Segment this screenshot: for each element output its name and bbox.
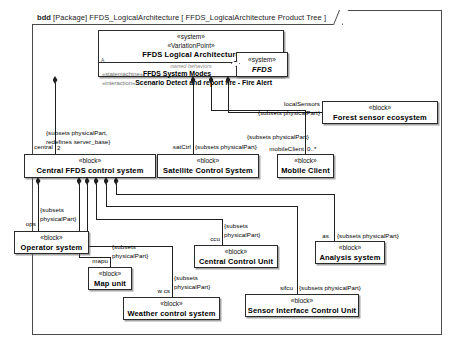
block-operator-system[interactable]: «block» Operator system (14, 231, 89, 254)
edge-label-localsensors-constraint: {subsets physicalPart} (222, 109, 320, 117)
edge-label-central-constraint-2: redefines server_base} (46, 138, 110, 146)
block-ffds-stereotype: «system» (237, 56, 287, 65)
edge-wcs-v2 (172, 246, 173, 297)
edge-ccu-v2 (222, 219, 223, 245)
block-ccu-stereotype: «block» (195, 248, 277, 257)
edge-label-ops-constraint-1: {subsets (40, 206, 64, 214)
diagram-title: [ FFDS_LogicalArchitecture Product Tree … (181, 13, 326, 22)
edge-label-mobile-role: mobileClient (252, 145, 304, 153)
edge-label-mobile-constraint: {subsets physicalPart} (247, 133, 309, 141)
diagram-kind-label: bdd (37, 13, 51, 22)
diagram-package-keyword: [Package] (53, 13, 87, 22)
block-root-marker: A (101, 57, 104, 63)
block-sensor-name: Sensor Interface Control Unit (246, 306, 358, 316)
edge-sifcu-v1 (106, 184, 107, 207)
behavior-interaction-name: Scenario Detect and report fire - Fire A… (135, 79, 272, 86)
edge-label-ops-constraint-2: physicalPart} (40, 215, 76, 223)
edge-label-central-role: central (1, 143, 53, 151)
edge-label-sifcu-constraint: {subsets physicalPart} (299, 284, 361, 292)
edge-sifcu-v2 (297, 206, 298, 294)
edge-label-mobile-multiplicity: 0..* (307, 145, 317, 153)
edge-label-as-role: as (300, 232, 329, 240)
block-sensor-stereotype: «block» (246, 297, 358, 306)
edge-label-central-constraint-1: {subsets physicalPart, (46, 129, 108, 137)
edge-mobile-v1 (211, 83, 212, 111)
edge-ccu-h (96, 219, 222, 220)
block-satellite-stereotype: «block» (158, 157, 258, 166)
block-sensor-interface-control-unit[interactable]: «block» Sensor Interface Control Unit (245, 294, 359, 317)
edge-label-wcs-constraint-2: physicalPart} (174, 283, 210, 291)
block-central-name: Central FFDS control system (25, 166, 155, 176)
edge-mobile-v2 (305, 110, 306, 154)
block-ccu-name: Central Control Unit (195, 257, 277, 267)
block-analysis-name: Analysis system (316, 253, 384, 263)
edge-label-as-constraint: {subsets physicalPart} (337, 232, 399, 240)
block-map-name: Map unit (89, 279, 131, 289)
block-forest-sensor-ecosystem[interactable]: «block» Forest sensor ecosystem (322, 101, 438, 124)
edge-label-ccu-constraint-1: {subsets (224, 222, 248, 230)
block-analysis-system[interactable]: «block» Analysis system (315, 241, 385, 264)
block-ffds-name: FFDS (237, 65, 287, 75)
block-central-control-unit[interactable]: «block» Central Control Unit (194, 245, 278, 268)
diagram-package-name: FFDS_LogicalArchitecture (89, 13, 179, 22)
block-analysis-stereotype: «block» (316, 244, 384, 253)
block-mobile-stereotype: «block» (278, 157, 333, 166)
edge-ccu-v1 (96, 184, 97, 220)
block-operator-stereotype: «block» (15, 234, 88, 243)
edge-mapu-v2 (110, 257, 111, 267)
edge-label-mapu-role: mapu (62, 257, 108, 265)
block-weather-stereotype: «block» (124, 300, 219, 309)
behavior-statemachine-name: FFDS System Modes (143, 70, 211, 77)
edge-satellite-v (193, 83, 194, 154)
edge-label-mapu-constraint-1: {subsets (112, 243, 136, 251)
edge-label-satctrl-role: satCtrl (140, 143, 191, 151)
block-operator-name: Operator system (15, 243, 88, 253)
block-satellite-control-system[interactable]: «block» Satellite Control System (157, 154, 259, 178)
edge-label-ccu-role: ccu (178, 235, 220, 243)
edge-as-v2 (334, 194, 335, 241)
edge-label-wcs-constraint-1: {subsets (174, 274, 198, 282)
edge-label-localsensors-role: localSensors (232, 100, 320, 108)
edge-label-wcs-role: w cs (126, 287, 170, 295)
block-mobile-name: Mobile Client (278, 166, 333, 176)
block-forest-name: Forest sensor ecosystem (323, 113, 437, 123)
edge-label-mapu-constraint-2: physicalPart} (112, 252, 148, 260)
edge-as-h (116, 194, 334, 195)
edge-ops-v (38, 184, 39, 231)
block-mobile-client[interactable]: «block» Mobile Client (277, 154, 334, 178)
diagram-frame-header: bdd [Package] FFDS_LogicalArchitecture [… (32, 10, 343, 25)
block-central-stereotype: «block» (25, 157, 155, 166)
block-weather-control-system[interactable]: «block» Weather control system (123, 297, 220, 320)
block-root-stereotype-system: «system» (99, 33, 283, 42)
block-ffds[interactable]: «system» FFDS (236, 52, 288, 77)
edge-label-ops-role: ops (0, 220, 36, 228)
behavior-interaction-stereotype: «interaction» (102, 80, 135, 86)
diagram-canvas: bdd [Package] FFDS_LogicalArchitecture [… (0, 0, 450, 345)
edge-label-sifcu-role: sifcu (250, 284, 293, 292)
edge-label-central-multiplicity: 2 (57, 144, 61, 152)
block-forest-stereotype: «block» (323, 104, 437, 113)
block-root-stereotype-variationpoint: «VariationPoint» (99, 42, 283, 51)
block-map-stereotype: «block» (89, 270, 131, 279)
behavior-statemachine-stereotype: «statemachine» (102, 71, 143, 77)
block-satellite-name: Satellite Control System (158, 166, 258, 176)
block-weather-name: Weather control system (124, 309, 219, 319)
block-central-ffds-control-system[interactable]: «block» Central FFDS control system (24, 154, 156, 178)
edge-sifcu-h (106, 206, 297, 207)
edge-label-ccu-constraint-2: physicalPart} (224, 231, 260, 239)
edge-label-satctrl-constraint: {subsets physicalPart} (195, 143, 257, 151)
